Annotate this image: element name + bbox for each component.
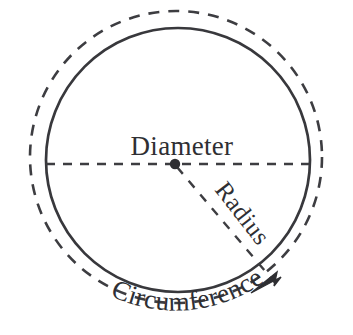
- circumference-label: Circumference: [108, 262, 269, 317]
- circle-diagram-figure: Diameter Radius Circumference: [0, 0, 353, 335]
- radius-label: Radius: [210, 176, 276, 249]
- diagram-canvas: Diameter Radius Circumference: [0, 0, 353, 335]
- circumference-label-textpath: Circumference: [108, 262, 269, 317]
- diameter-label: Diameter: [131, 131, 234, 161]
